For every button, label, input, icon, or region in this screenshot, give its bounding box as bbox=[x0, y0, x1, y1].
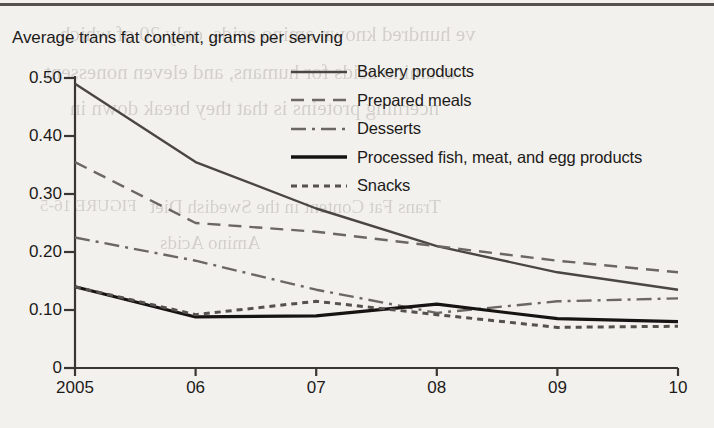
series-line bbox=[75, 287, 678, 328]
series-line bbox=[75, 287, 678, 322]
series-line bbox=[75, 238, 678, 313]
series-line bbox=[75, 84, 678, 290]
chart-plot-area bbox=[0, 0, 714, 428]
figure-page: ve hundred known amino acids, only 20 of… bbox=[0, 0, 714, 428]
